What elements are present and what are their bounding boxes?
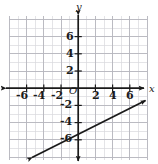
x-axis-label: x	[149, 84, 155, 94]
y-tick-label-neg4: -4	[60, 116, 72, 127]
y-tick-label-2: 2	[66, 65, 74, 76]
x-tick-label-6: 6	[126, 90, 134, 101]
origin-label: O	[69, 86, 77, 96]
y-tick-label-6: 6	[66, 31, 74, 42]
x-tick-label-2: 2	[92, 90, 100, 101]
graph-canvas	[0, 0, 158, 164]
x-tick-label-neg4: -4	[33, 90, 45, 101]
coordinate-graph-figure: -6 -4 -2 2 4 6 6 4 2 -2 -4 -6 O y x	[0, 0, 158, 164]
y-tick-label-4: 4	[66, 48, 74, 59]
plotted-line	[32, 101, 146, 158]
x-tick-label-4: 4	[109, 90, 117, 101]
x-tick-label-neg6: -6	[16, 90, 28, 101]
y-tick-label-neg2: -2	[60, 99, 72, 110]
y-tick-label-neg6: -6	[60, 133, 72, 144]
y-axis-label: y	[76, 2, 82, 12]
